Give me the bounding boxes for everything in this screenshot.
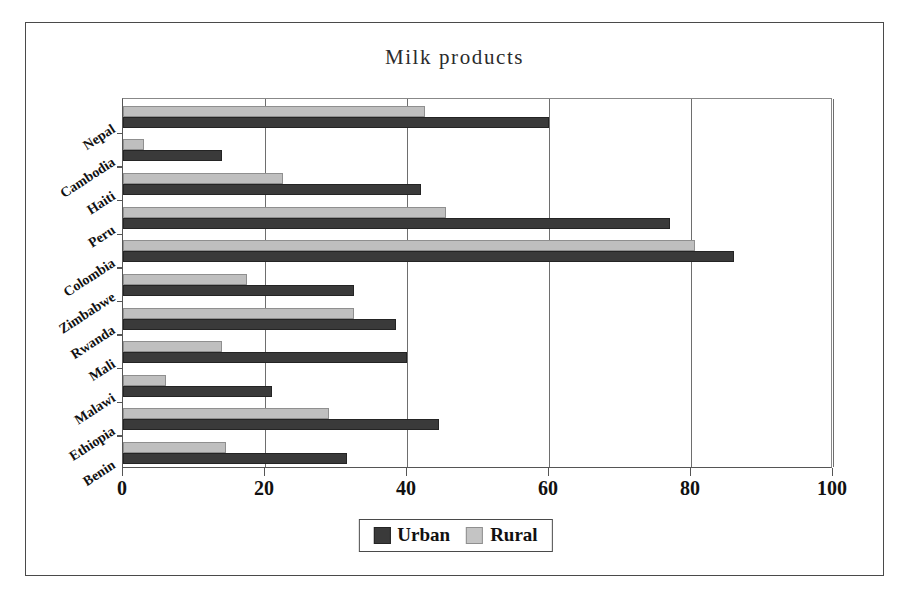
legend-label-rural: Rural	[490, 524, 538, 546]
bar-rural	[123, 341, 222, 352]
x-axis: 020406080100	[122, 468, 832, 508]
x-axis-label-40: 40	[396, 477, 416, 500]
bar-rural	[123, 106, 425, 117]
bar-group	[123, 200, 831, 234]
bar-urban	[123, 453, 347, 464]
bar-group	[123, 267, 831, 301]
bar-rural	[123, 442, 226, 453]
bar-rural	[123, 375, 166, 386]
bar-group	[123, 402, 831, 436]
chart-title: Milk products	[26, 45, 883, 70]
bar-urban	[123, 218, 670, 229]
x-tick-100	[832, 468, 833, 476]
bar-group	[123, 301, 831, 335]
bar-rural	[123, 408, 329, 419]
chart-legend: UrbanRural	[358, 519, 552, 552]
bar-group	[123, 435, 831, 469]
bar-rural	[123, 207, 446, 218]
bar-urban	[123, 319, 396, 330]
bar-rural	[123, 240, 695, 251]
x-axis-label-80: 80	[680, 477, 700, 500]
x-axis-label-20: 20	[254, 477, 274, 500]
x-tick-60	[548, 468, 549, 476]
x-axis-label-100: 100	[817, 477, 847, 500]
bar-rural	[123, 139, 144, 150]
bar-urban	[123, 117, 549, 128]
bar-rural	[123, 308, 354, 319]
x-axis-label-0: 0	[117, 477, 127, 500]
x-tick-0	[122, 468, 123, 476]
bar-group	[123, 368, 831, 402]
legend-item-urban: Urban	[373, 524, 450, 546]
bar-group	[123, 334, 831, 368]
bar-urban	[123, 251, 734, 262]
x-tick-80	[690, 468, 691, 476]
legend-label-urban: Urban	[397, 524, 450, 546]
x-axis-label-60: 60	[538, 477, 558, 500]
legend-swatch-urban	[373, 527, 390, 544]
gridline-100	[833, 99, 834, 467]
bar-urban	[123, 352, 407, 363]
plot-area	[122, 98, 832, 468]
x-tick-20	[264, 468, 265, 476]
bar-rural	[123, 173, 283, 184]
bar-group	[123, 133, 831, 167]
bar-urban	[123, 150, 222, 161]
bar-urban	[123, 419, 439, 430]
legend-swatch-rural	[466, 527, 483, 544]
bar-urban	[123, 285, 354, 296]
bar-rural	[123, 274, 247, 285]
bar-group	[123, 99, 831, 133]
bar-urban	[123, 184, 421, 195]
bar-group	[123, 166, 831, 200]
x-tick-40	[406, 468, 407, 476]
bar-urban	[123, 386, 272, 397]
bar-group	[123, 234, 831, 268]
legend-item-rural: Rural	[466, 524, 538, 546]
